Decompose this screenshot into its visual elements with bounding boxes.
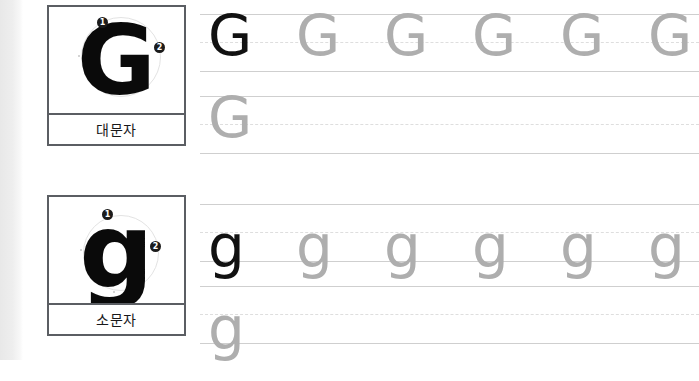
model-card-lowercase: g 1 2 소문자 [47, 195, 186, 336]
stroke-order-marker-1-icon: 1 [97, 17, 108, 28]
stroke-order-marker-1-icon: 1 [102, 209, 113, 220]
model-glyph-area-lowercase: g 1 2 [49, 197, 184, 305]
trace-letter: g [208, 300, 245, 358]
practice-row[interactable]: GGGGGG [200, 14, 699, 84]
glyph-track: gggggg [200, 204, 699, 274]
trace-letter: G [560, 8, 604, 65]
trace-letter: G [384, 8, 428, 65]
glyph-track: G [200, 96, 699, 166]
glyph-track: GGGGGG [200, 14, 699, 84]
trace-letter: g [472, 218, 509, 276]
model-letter-lowercase: g [49, 199, 184, 303]
practice-row[interactable]: gggggg [200, 204, 699, 274]
section-uppercase: G 1 2 대문자 GGGGGG G [0, 0, 699, 175]
trace-letter: G [648, 8, 692, 65]
practice-row[interactable]: G [200, 96, 699, 166]
worksheet-page: G 1 2 대문자 GGGGGG G [0, 0, 699, 381]
section-lowercase: g 1 2 소문자 gggggg g [0, 190, 699, 365]
model-card-uppercase: G 1 2 대문자 [47, 5, 186, 146]
practice-area-uppercase: GGGGGG G [200, 0, 699, 175]
trace-letter: g [384, 218, 421, 276]
model-label-box-lowercase: 소문자 [47, 303, 186, 336]
practice-area-lowercase: gggggg g [200, 190, 699, 365]
model-label-text-lowercase: 소문자 [96, 313, 137, 327]
trace-letter: g [208, 218, 245, 276]
trace-letter: G [296, 8, 340, 65]
trace-letter: G [208, 8, 252, 65]
trace-letter: g [296, 218, 333, 276]
practice-row[interactable]: g [200, 286, 699, 356]
glyph-track: g [200, 286, 699, 356]
model-label-box-uppercase: 대문자 [47, 113, 186, 146]
trace-letter: g [560, 218, 597, 276]
stroke-order-marker-2-icon: 2 [150, 241, 161, 252]
model-letter-uppercase: G [49, 13, 184, 109]
model-glyph-area-uppercase: G 1 2 [49, 7, 184, 115]
trace-letter: G [472, 8, 516, 65]
trace-letter: g [648, 218, 685, 276]
trace-letter: G [208, 90, 252, 147]
stroke-order-marker-2-icon: 2 [154, 42, 165, 53]
model-label-text-uppercase: 대문자 [96, 123, 137, 137]
